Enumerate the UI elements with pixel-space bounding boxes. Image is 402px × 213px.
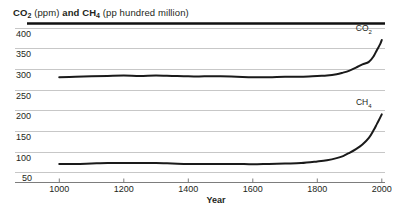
y-axis-tick-label: 100 [16,153,31,163]
x-axis-tick-label: 1400 [178,184,198,194]
gridlines [15,29,385,173]
x-axis-tick-label: 1000 [49,184,69,194]
series-label-subscript: 4 [368,103,372,109]
data-series [59,40,382,164]
y-axis-tick-label: 350 [16,49,31,59]
x-axis-title: Year [206,195,226,205]
y-axis-tick-label: 200 [16,111,31,121]
x-axis-tick-label: 2000 [372,184,392,194]
x-axis-tick-label: 1200 [114,184,134,194]
y-axis-tick-label: 400 [16,29,31,39]
y-axis-tick-label: 300 [16,70,31,80]
series-label-ch4: CH4 [356,97,372,109]
x-axis-tick-label: 1800 [307,184,327,194]
x-axis-tick-label: 1600 [243,184,263,194]
series-line-co2 [59,40,382,77]
y-axis-tick-label: 250 [16,91,31,101]
y-axis-tick-label: 50 [22,173,32,183]
series-line-ch4 [59,114,382,164]
series-label-subscript: 2 [369,29,373,35]
y-axis-tick-label: 150 [16,132,31,142]
chart-plot-area: 40035030025020015010050 1000120014001600… [0,0,402,213]
chart-figure: CO2 (ppm) and CH4 (pp hundred million) 4… [0,0,402,213]
y-axis-tick-labels: 40035030025020015010050 [16,29,32,184]
x-axis-tick-labels: 100012001400160018002000 [49,179,392,195]
